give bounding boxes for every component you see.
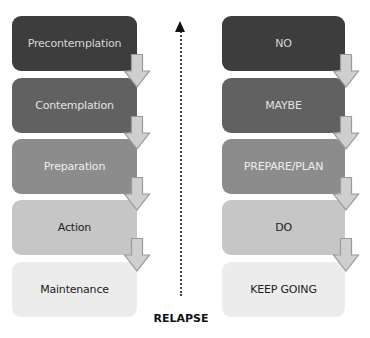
arrow-down-icon xyxy=(332,54,360,88)
meaning-box-no: NO xyxy=(222,16,345,71)
arrow-down-icon xyxy=(332,177,360,211)
arrow-down-icon xyxy=(123,116,151,150)
stage-box-action: Action xyxy=(12,200,137,255)
stage-label: Contemplation xyxy=(35,99,113,112)
meaning-box-prepare-plan: PREPARE/PLAN xyxy=(222,139,345,194)
meaning-box-maybe: MAYBE xyxy=(222,78,345,133)
arrow-up-icon xyxy=(175,21,185,32)
arrow-down-icon xyxy=(123,177,151,211)
stage-label: Action xyxy=(58,221,91,234)
meaning-label: NO xyxy=(275,37,292,50)
meaning-label: DO xyxy=(275,221,292,234)
arrow-down-icon xyxy=(123,238,151,272)
stage-label: Preparation xyxy=(44,160,105,173)
stage-box-preparation: Preparation xyxy=(12,139,137,194)
meaning-label: PREPARE/PLAN xyxy=(244,160,323,173)
relapse-dotted-line xyxy=(180,28,182,296)
meaning-box-do: DO xyxy=(222,200,345,255)
meaning-box-keep-going: KEEP GOING xyxy=(222,262,345,317)
stage-box-contemplation: Contemplation xyxy=(12,78,137,133)
arrow-down-icon xyxy=(332,238,360,272)
relapse-label: RELAPSE xyxy=(148,312,214,325)
stage-label: Maintenance xyxy=(40,283,109,296)
meaning-label: MAYBE xyxy=(265,99,301,112)
stage-box-maintenance: Maintenance xyxy=(12,262,137,317)
meaning-label: KEEP GOING xyxy=(250,283,316,296)
stage-box-precontemplation: Precontemplation xyxy=(12,16,137,71)
arrow-down-icon xyxy=(123,54,151,88)
arrow-down-icon xyxy=(332,116,360,150)
stage-label: Precontemplation xyxy=(28,37,122,50)
